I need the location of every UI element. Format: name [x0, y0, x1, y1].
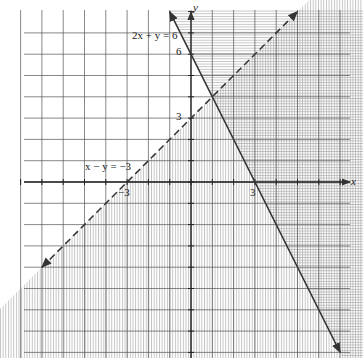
x-tick-label-neg3: −3 [118, 186, 130, 198]
x-tick-label-3: 3 [250, 186, 256, 198]
y-tick-label-6: 6 [176, 45, 182, 57]
y-tick-label-3: 3 [176, 110, 182, 122]
equation-label-dashed: x − y = −3 [85, 160, 131, 172]
y-axis-label: y [193, 1, 198, 13]
x-axis-label: x [351, 175, 356, 187]
equation-label-solid: 2x + y = 6 [132, 29, 177, 41]
